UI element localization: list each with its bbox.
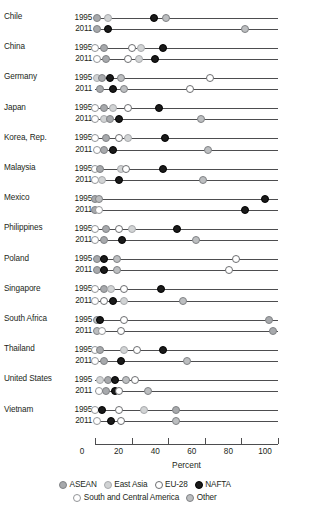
data-point-asean[interactable] — [96, 165, 104, 173]
data-point-other[interactable] — [204, 146, 212, 154]
data-point-nafta[interactable] — [161, 134, 169, 142]
data-point-other[interactable] — [179, 297, 187, 305]
data-point-nafta[interactable] — [115, 115, 123, 123]
data-point-scam[interactable] — [91, 297, 99, 305]
data-point-asean[interactable] — [100, 357, 108, 365]
data-point-scam[interactable] — [91, 134, 99, 142]
data-point-asean[interactable] — [93, 25, 101, 33]
data-point-asean[interactable] — [100, 146, 108, 154]
data-point-eu28[interactable] — [122, 165, 130, 173]
data-point-eu28[interactable] — [131, 376, 139, 384]
data-point-asean[interactable] — [96, 85, 104, 93]
data-point-asean[interactable] — [102, 225, 110, 233]
data-point-nafta[interactable] — [150, 14, 158, 22]
data-point-eastasia[interactable] — [124, 134, 132, 142]
data-point-nafta[interactable] — [151, 55, 159, 63]
data-point-scam[interactable] — [98, 327, 106, 335]
data-point-eu28[interactable] — [115, 134, 123, 142]
data-point-scam[interactable] — [95, 206, 103, 214]
data-point-other[interactable] — [197, 115, 205, 123]
data-point-nafta[interactable] — [109, 85, 117, 93]
data-point-eu28[interactable] — [115, 225, 123, 233]
data-point-scam[interactable] — [91, 44, 99, 52]
data-point-other[interactable] — [162, 14, 170, 22]
data-point-asean[interactable] — [96, 346, 104, 354]
data-point-nafta[interactable] — [159, 165, 167, 173]
data-point-eu28[interactable] — [120, 285, 128, 293]
data-point-nafta[interactable] — [100, 266, 108, 274]
data-point-eastasia[interactable] — [120, 297, 128, 305]
legend-item-scam[interactable]: South and Central America — [73, 493, 179, 502]
data-point-asean[interactable] — [102, 387, 110, 395]
data-point-other[interactable] — [113, 266, 121, 274]
legend-item-eastasia[interactable]: East Asia — [104, 480, 148, 489]
data-point-asean[interactable] — [100, 236, 108, 244]
legend-item-eu28[interactable]: EU-28 — [155, 480, 188, 489]
data-point-nafta[interactable] — [159, 44, 167, 52]
data-point-nafta[interactable] — [241, 206, 249, 214]
data-point-eu28[interactable] — [120, 316, 128, 324]
data-point-nafta[interactable] — [106, 74, 114, 82]
data-point-nafta[interactable] — [98, 406, 106, 414]
data-point-eastasia[interactable] — [120, 346, 128, 354]
data-point-other[interactable] — [183, 357, 191, 365]
data-point-nafta[interactable] — [159, 346, 167, 354]
data-point-asean[interactable] — [100, 104, 108, 112]
data-point-nafta[interactable] — [107, 417, 115, 425]
data-point-asean[interactable] — [172, 406, 180, 414]
data-point-nafta[interactable] — [115, 176, 123, 184]
data-point-eu28[interactable] — [225, 266, 233, 274]
data-point-scam[interactable] — [91, 285, 99, 293]
data-point-nafta[interactable] — [155, 104, 163, 112]
data-point-nafta[interactable] — [96, 316, 104, 324]
data-point-other[interactable] — [122, 376, 130, 384]
data-point-nafta[interactable] — [261, 195, 269, 203]
data-point-asean[interactable] — [93, 14, 101, 22]
data-point-eastasia[interactable] — [140, 406, 148, 414]
data-point-other[interactable] — [120, 85, 128, 93]
data-point-other[interactable] — [199, 176, 207, 184]
data-point-asean[interactable] — [269, 327, 277, 335]
data-point-other[interactable] — [192, 236, 200, 244]
data-point-other[interactable] — [241, 25, 249, 33]
data-point-nafta[interactable] — [109, 297, 117, 305]
data-point-other[interactable] — [144, 387, 152, 395]
data-point-nafta[interactable] — [100, 255, 108, 263]
data-point-scam[interactable] — [91, 225, 99, 233]
data-point-eu28[interactable] — [186, 85, 194, 93]
data-point-eu28[interactable] — [115, 387, 123, 395]
data-point-scam[interactable] — [91, 236, 99, 244]
data-point-asean[interactable] — [100, 44, 108, 52]
data-point-eastasia[interactable] — [137, 44, 145, 52]
data-point-eu28[interactable] — [117, 417, 125, 425]
data-point-other[interactable] — [95, 195, 103, 203]
legend-item-asean[interactable]: ASEAN — [59, 480, 97, 489]
data-point-asean[interactable] — [102, 134, 110, 142]
data-point-nafta[interactable] — [157, 285, 165, 293]
data-point-eu28[interactable] — [124, 55, 132, 63]
data-point-nafta[interactable] — [173, 225, 181, 233]
data-point-asean[interactable] — [102, 55, 110, 63]
data-point-eu28[interactable] — [206, 74, 214, 82]
legend-item-nafta[interactable]: NAFTA — [195, 480, 231, 489]
data-point-eastasia[interactable] — [109, 104, 117, 112]
data-point-nafta[interactable] — [117, 357, 125, 365]
data-point-eu28[interactable] — [232, 255, 240, 263]
data-point-other[interactable] — [117, 74, 125, 82]
data-point-nafta[interactable] — [118, 236, 126, 244]
data-point-eastasia[interactable] — [104, 14, 112, 22]
data-point-scam[interactable] — [91, 357, 99, 365]
data-point-scam[interactable] — [93, 417, 101, 425]
data-point-other[interactable] — [172, 417, 180, 425]
data-point-eastasia[interactable] — [135, 55, 143, 63]
data-point-eu28[interactable] — [100, 297, 108, 305]
data-point-scam[interactable] — [91, 115, 99, 123]
data-point-asean[interactable] — [106, 115, 114, 123]
legend-item-other[interactable]: Other — [186, 493, 216, 502]
data-point-eu28[interactable] — [117, 327, 125, 335]
data-point-eastasia[interactable] — [107, 285, 115, 293]
data-point-scam[interactable] — [91, 104, 99, 112]
data-point-nafta[interactable] — [111, 376, 119, 384]
data-point-eastasia[interactable] — [128, 225, 136, 233]
data-point-eu28[interactable] — [115, 406, 123, 414]
